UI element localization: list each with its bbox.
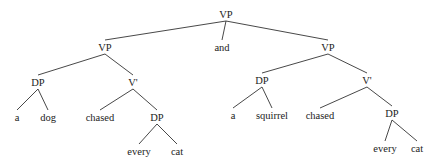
leaf-cat-right: cat (411, 143, 423, 154)
tree-edge (320, 87, 367, 108)
leaf-chased-right: chased (306, 110, 335, 121)
node-vp-right: VP (321, 42, 335, 53)
leaf-squirrel: squirrel (256, 110, 288, 121)
node-vbar-right: V' (362, 75, 372, 86)
tree-edge (100, 89, 133, 110)
node-dp-subject-left: DP (31, 77, 45, 88)
leaf-a-right: a (231, 110, 236, 121)
tree-edge (38, 54, 105, 75)
leaf-every-left: every (127, 146, 151, 157)
tree-edge (392, 120, 417, 141)
leaf-every-right: every (373, 143, 397, 154)
tree-edge (157, 124, 177, 144)
node-and: and (214, 42, 230, 53)
tree-canvas: VP and VP VP DP a dog V' chased DP every… (0, 0, 434, 165)
tree-edge (262, 54, 328, 73)
tree-edge (367, 87, 392, 106)
node-dp-object-left: DP (150, 112, 164, 123)
tree-edge (105, 54, 133, 75)
tree-edge (328, 54, 367, 73)
leaf-a-left: a (15, 112, 20, 123)
tree-edge (385, 120, 392, 141)
node-dp-object-right: DP (385, 108, 399, 119)
tree-edge (233, 87, 262, 108)
leaf-cat-left: cat (171, 146, 183, 157)
tree-edge (262, 87, 272, 108)
tree-labels: VP and VP VP DP a dog V' chased DP every… (15, 9, 424, 157)
tree-edge (105, 21, 226, 40)
node-dp-subject-right: DP (255, 75, 269, 86)
tree-edge (133, 89, 157, 110)
node-vbar-left: V' (128, 77, 138, 88)
tree-edge (222, 21, 226, 40)
tree-edges (17, 21, 417, 144)
tree-edge (17, 89, 38, 110)
leaf-dog: dog (40, 112, 57, 123)
tree-edge (38, 89, 48, 110)
leaf-chased-left: chased (86, 112, 115, 123)
tree-edge (226, 21, 328, 40)
node-root-vp: VP (219, 9, 233, 20)
syntax-tree-diagram: VP and VP VP DP a dog V' chased DP every… (0, 0, 434, 165)
tree-edge (139, 124, 157, 144)
node-vp-left: VP (98, 42, 112, 53)
